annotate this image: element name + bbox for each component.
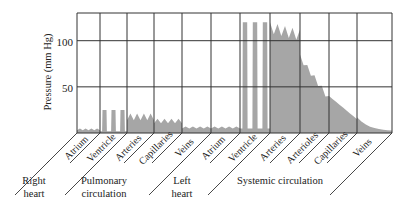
group-label: Right bbox=[22, 175, 45, 186]
group-label: circulation bbox=[82, 188, 128, 199]
segment-labels: AtriumVentricleArteriesCapillariesVeinsA… bbox=[15, 128, 392, 199]
y-tick-50: 50 bbox=[62, 82, 74, 94]
segment-label: Capillaries bbox=[311, 128, 349, 166]
y-tick-100: 100 bbox=[57, 36, 74, 48]
group-label: Pulmonary bbox=[81, 175, 128, 186]
pressure-chart: 100 50 Pressure (mm Hg) AtriumVentricleA… bbox=[0, 0, 410, 212]
group-divider bbox=[330, 161, 364, 195]
segment-label: Veins bbox=[350, 136, 374, 160]
segment-label: Ventricle bbox=[226, 130, 260, 164]
y-axis-label: Pressure (mm Hg) bbox=[42, 33, 54, 110]
segment-label: Atrium bbox=[199, 133, 227, 161]
pressure-area bbox=[77, 22, 392, 133]
group-label: heart bbox=[172, 188, 193, 199]
group-label: Left bbox=[173, 175, 191, 186]
group-label: heart bbox=[24, 188, 45, 199]
segment-label: Capillaries bbox=[136, 128, 174, 166]
group-label: Systemic circulation bbox=[237, 175, 324, 186]
